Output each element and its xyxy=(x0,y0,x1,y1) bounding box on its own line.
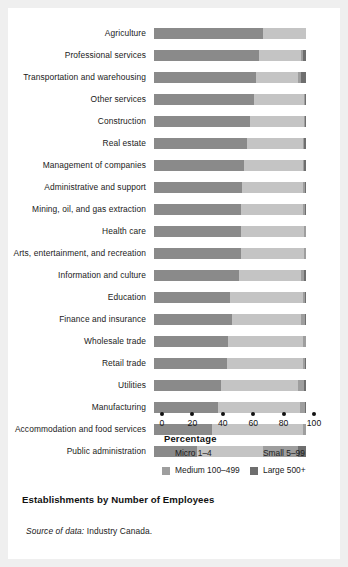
stacked-bar xyxy=(154,204,306,215)
bar-segment xyxy=(154,314,232,325)
category-label: Real estate xyxy=(8,139,154,147)
bar-segment xyxy=(154,50,259,61)
axis-tick-label: 40 xyxy=(218,419,228,428)
axis-tick-label: 100 xyxy=(307,419,321,428)
stacked-bar xyxy=(154,138,306,149)
legend-label: Medium 100–499 xyxy=(175,466,240,474)
category-label: Transportation and warehousing xyxy=(8,73,154,81)
bar-segment xyxy=(154,116,250,127)
category-label: Retail trade xyxy=(8,359,154,367)
bar-segment xyxy=(301,72,306,83)
chart-row: Other services xyxy=(8,88,340,110)
chart-row: Construction xyxy=(8,110,340,132)
axis-tick-dot xyxy=(312,412,316,416)
bar-segment xyxy=(221,380,299,391)
stacked-bar xyxy=(154,94,306,105)
stacked-bar xyxy=(154,314,306,325)
legend-label: Large 500+ xyxy=(263,466,306,474)
category-label: Mining, oil, and gas extraction xyxy=(8,205,154,213)
stacked-bar xyxy=(154,28,306,39)
legend-item: Medium 100–499 xyxy=(162,466,250,474)
legend-swatch xyxy=(162,449,170,457)
axis-tick-dot xyxy=(251,412,255,416)
figure-panel: AgricultureProfessional servicesTranspor… xyxy=(8,8,340,559)
source-text: Industry Canada. xyxy=(87,526,152,536)
axis-tick-dot xyxy=(190,412,194,416)
category-label: Accommodation and food services xyxy=(8,425,154,433)
bar-segment xyxy=(241,226,305,237)
bar-segment xyxy=(218,402,300,413)
x-axis-title: Percentage xyxy=(164,433,217,444)
category-label: Arts, entertainment, and recreation xyxy=(8,249,154,257)
bar-segment xyxy=(254,94,304,105)
bar-segment xyxy=(263,28,306,39)
axis-tick-dot xyxy=(282,412,286,416)
bar-segment xyxy=(305,292,306,303)
bar-segment xyxy=(228,336,302,347)
bar-segment xyxy=(247,138,303,149)
chart-row: Agriculture xyxy=(8,22,340,44)
category-label: Finance and insurance xyxy=(8,315,154,323)
bar-segment xyxy=(304,380,306,391)
bar-segment xyxy=(154,358,227,369)
chart-row: Health care xyxy=(8,220,340,242)
chart-row: Retail trade xyxy=(8,352,340,374)
bar-segment xyxy=(154,270,239,281)
stacked-bar xyxy=(154,50,306,61)
bar-segment xyxy=(154,248,241,259)
category-label: Manufacturing xyxy=(8,403,154,411)
figure-caption: Establishments by Number of Employees xyxy=(22,494,214,505)
bar-segment xyxy=(305,94,306,105)
bar-segment xyxy=(154,226,241,237)
bar-segment xyxy=(305,116,306,127)
bar-segment xyxy=(259,50,302,61)
bar-segment xyxy=(241,248,305,259)
stacked-bar-chart: AgricultureProfessional servicesTranspor… xyxy=(8,22,340,412)
bar-segment xyxy=(227,358,303,369)
bar-segment xyxy=(154,94,254,105)
stacked-bar xyxy=(154,270,306,281)
bar-segment xyxy=(154,138,247,149)
axis-tick-label: 20 xyxy=(188,419,198,428)
axis-tick-label: 80 xyxy=(279,419,289,428)
chart-row: Management of companies xyxy=(8,154,340,176)
legend-item: Large 500+ xyxy=(250,466,340,474)
chart-row: Arts, entertainment, and recreation xyxy=(8,242,340,264)
chart-legend: Micro 1–4Small 5–99Medium 100–499Large 5… xyxy=(162,449,340,475)
bar-segment xyxy=(154,204,241,215)
chart-row: Mining, oil, and gas extraction xyxy=(8,198,340,220)
category-label: Public administration xyxy=(8,447,154,455)
bar-segment xyxy=(250,116,305,127)
bar-segment xyxy=(154,380,221,391)
chart-row: Real estate xyxy=(8,132,340,154)
bar-segment xyxy=(305,358,306,369)
stacked-bar xyxy=(154,380,306,391)
category-label: Construction xyxy=(8,117,154,125)
axis-tick-dot xyxy=(160,412,164,416)
stacked-bar xyxy=(154,248,306,259)
category-label: Professional services xyxy=(8,51,154,59)
bar-segment xyxy=(242,182,303,193)
bar-segment xyxy=(305,182,306,193)
category-label: Wholesale trade xyxy=(8,337,154,345)
bar-segment xyxy=(154,72,256,83)
figure-source: Source of data: Industry Canada. xyxy=(26,526,152,536)
axis-tick-label: 0 xyxy=(160,419,165,428)
category-label: Agriculture xyxy=(8,29,154,37)
stacked-bar xyxy=(154,358,306,369)
legend-swatch xyxy=(162,467,170,475)
bar-segment xyxy=(305,402,306,413)
bar-segment xyxy=(304,138,306,149)
stacked-bar xyxy=(154,226,306,237)
axis-tick-dot xyxy=(221,412,225,416)
stacked-bar xyxy=(154,160,306,171)
legend-label: Small 5–99 xyxy=(263,449,305,457)
stacked-bar xyxy=(154,116,306,127)
bar-segment xyxy=(256,72,299,83)
bar-segment xyxy=(241,204,303,215)
bar-segment xyxy=(305,314,306,325)
stacked-bar xyxy=(154,182,306,193)
bar-segment xyxy=(232,314,302,325)
bar-segment xyxy=(154,336,228,347)
bar-segment xyxy=(154,160,244,171)
